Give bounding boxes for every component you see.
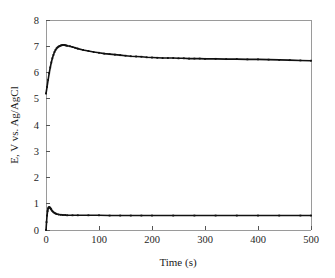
series-marker — [151, 57, 153, 59]
series-marker — [47, 79, 49, 81]
series-marker — [103, 53, 105, 55]
series-marker — [156, 57, 158, 59]
series-marker — [114, 54, 116, 56]
series-marker — [56, 213, 58, 215]
series-marker — [247, 58, 249, 60]
series-marker — [62, 214, 64, 216]
series-marker — [66, 214, 68, 216]
series-marker — [300, 60, 302, 62]
series-marker — [215, 215, 217, 217]
series-marker — [178, 57, 180, 59]
series-marker — [268, 59, 270, 61]
series-marker — [172, 215, 174, 217]
series-marker — [98, 214, 100, 216]
y-tick-label: 8 — [34, 15, 39, 26]
series-marker — [54, 51, 56, 53]
series-marker — [51, 57, 53, 59]
series-marker — [64, 214, 66, 216]
series-marker — [109, 215, 111, 217]
y-axis-title: E, V vs. Ag/AgCl — [8, 86, 20, 164]
series-marker — [119, 215, 121, 217]
series-marker — [50, 62, 52, 64]
series-marker — [130, 55, 132, 57]
x-tick-label: 300 — [197, 234, 213, 245]
series-marker — [88, 50, 90, 52]
series-marker — [310, 215, 312, 217]
series-marker — [77, 214, 79, 216]
series-marker — [119, 54, 121, 56]
series-marker — [310, 60, 312, 62]
series-marker — [194, 215, 196, 217]
series-marker — [69, 45, 71, 47]
series-marker — [74, 47, 76, 49]
series-marker — [47, 210, 49, 212]
series-marker — [66, 45, 68, 47]
series-marker — [82, 49, 84, 51]
series-marker — [93, 51, 95, 53]
y-tick-label: 0 — [34, 225, 39, 236]
series-marker — [45, 93, 47, 95]
y-tick-label: 7 — [34, 41, 39, 52]
series-marker — [45, 229, 47, 231]
x-axis-title: Time (s) — [159, 256, 197, 269]
series-marker — [46, 221, 48, 223]
series-marker — [77, 48, 79, 50]
series-marker — [125, 55, 127, 57]
series-marker — [204, 58, 206, 60]
series-marker — [46, 215, 48, 217]
x-tick-label: 500 — [303, 234, 319, 245]
series-marker — [98, 52, 100, 54]
series-marker — [167, 57, 169, 59]
series-marker — [130, 215, 132, 217]
series-marker — [141, 215, 143, 217]
series-marker — [72, 214, 74, 216]
x-tick-label: 100 — [91, 234, 107, 245]
series-marker — [225, 58, 227, 60]
y-tick-label: 5 — [34, 93, 39, 104]
y-tick-label: 3 — [34, 146, 39, 157]
series-marker — [172, 57, 174, 59]
series-marker — [55, 49, 57, 51]
series-marker — [162, 57, 164, 59]
series-marker — [300, 215, 302, 217]
y-tick-label: 2 — [34, 172, 39, 183]
series-marker — [109, 53, 111, 55]
series-marker — [236, 58, 238, 60]
series-marker — [72, 46, 74, 48]
series-marker — [289, 59, 291, 61]
series-marker — [236, 215, 238, 217]
series-marker — [199, 58, 201, 60]
chart-figure: 012345678 0100200300400500 Time (s) E, V… — [0, 0, 335, 278]
series-marker — [60, 214, 62, 216]
series-marker — [141, 56, 143, 58]
series-marker — [49, 67, 51, 69]
series-marker — [257, 58, 259, 60]
x-tick-label: 200 — [144, 234, 160, 245]
chart-background — [0, 0, 335, 278]
series-marker — [151, 215, 153, 217]
y-tick-label: 1 — [34, 198, 39, 209]
series-marker — [278, 59, 280, 61]
chart-plot-area: 012345678 0100200300400500 Time (s) E, V… — [0, 0, 335, 278]
series-marker — [257, 215, 259, 217]
series-marker — [88, 214, 90, 216]
series-marker — [194, 58, 196, 60]
series-marker — [146, 56, 148, 58]
series-marker — [278, 215, 280, 217]
series-marker — [50, 209, 52, 211]
series-marker — [58, 214, 60, 216]
series-marker — [183, 57, 185, 59]
series-marker — [53, 54, 55, 56]
series-marker — [135, 56, 137, 58]
y-tick-label: 4 — [34, 120, 40, 131]
x-tick-label: 400 — [250, 234, 266, 245]
y-tick-label: 6 — [34, 67, 39, 78]
series-marker — [48, 72, 50, 74]
series-marker — [215, 58, 217, 60]
series-marker — [188, 58, 190, 60]
series-marker — [46, 86, 48, 88]
x-tick-label: 0 — [43, 234, 48, 245]
